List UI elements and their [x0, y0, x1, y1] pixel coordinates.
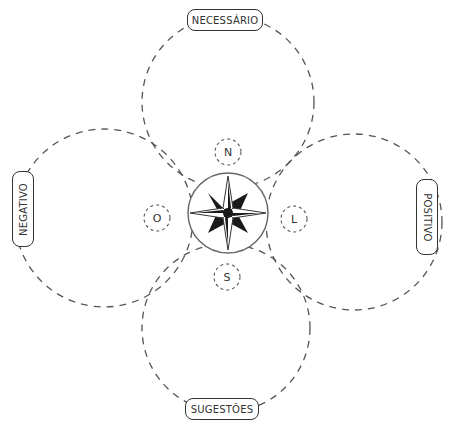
necessario-label: NECESSÁRIO	[187, 9, 263, 31]
positivo-label: POSITIVO	[416, 179, 438, 255]
negativo-text: NEGATIVO	[18, 183, 29, 236]
positivo-text: POSITIVO	[422, 193, 433, 241]
west-letter: O	[153, 212, 162, 225]
diagram-canvas: N O L S	[0, 0, 450, 427]
sugestoes-label: SUGESTÕES	[185, 398, 259, 420]
east-letter: L	[291, 213, 298, 226]
south-letter: S	[224, 271, 231, 284]
negativo-label: NEGATIVO	[12, 171, 34, 247]
north-letter: N	[224, 146, 232, 159]
necessario-text: NECESSÁRIO	[192, 15, 259, 26]
compass-rose-icon	[188, 173, 268, 253]
sugestoes-text: SUGESTÕES	[191, 404, 254, 415]
